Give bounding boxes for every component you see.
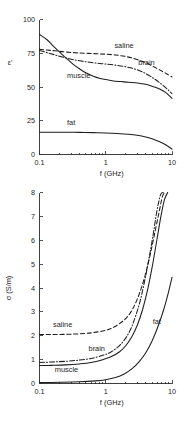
curve-label-conductivity-brain: brain bbox=[89, 344, 105, 353]
curve-label-conductivity-fat: fat bbox=[153, 317, 161, 326]
curve-label-permittivity-muscle: muscle bbox=[67, 71, 90, 80]
axis-spine bbox=[40, 20, 173, 155]
curve-permittivity-brain bbox=[40, 51, 173, 94]
x-axis-title-1: f (GHz) bbox=[100, 398, 124, 407]
curve-label-permittivity-saline: saline bbox=[114, 41, 133, 50]
axis-spine bbox=[40, 193, 173, 384]
curve-label-conductivity-muscle: muscle bbox=[55, 365, 78, 374]
curve-permittivity-fat bbox=[40, 132, 173, 149]
y-tick-label-0-1: 25 bbox=[27, 116, 35, 125]
x-tick-label-0-2: 10 bbox=[168, 158, 176, 167]
y-tick-label-0-2: 50 bbox=[27, 83, 35, 92]
y-tick-label-1-2: 2 bbox=[31, 331, 35, 340]
y-tick-label-0-4: 100 bbox=[23, 15, 35, 24]
x-axis-title-0: f (GHz) bbox=[100, 169, 124, 178]
y-tick-label-0-3: 75 bbox=[27, 49, 35, 58]
figure-container: 02550751000.1110f (GHz)ε'musclesalinebra… bbox=[0, 0, 189, 438]
curve-label-permittivity-fat: fat bbox=[67, 118, 75, 127]
x-tick-label-0-0: 0.1 bbox=[35, 158, 45, 167]
curve-conductivity-saline bbox=[40, 193, 166, 335]
x-tick-label-1-2: 10 bbox=[168, 387, 176, 396]
curve-label-conductivity-saline: saline bbox=[53, 320, 72, 329]
y-tick-label-1-1: 1 bbox=[31, 355, 35, 364]
y-tick-label-1-7: 7 bbox=[31, 212, 35, 221]
y-tick-label-1-8: 8 bbox=[31, 188, 35, 197]
y-axis-title-1: σ (S/m) bbox=[4, 276, 13, 301]
permittivity-chart: 02550751000.1110f (GHz)ε'musclesalinebra… bbox=[8, 15, 176, 177]
dielectric-properties-figure: 02550751000.1110f (GHz)ε'musclesalinebra… bbox=[0, 0, 189, 438]
x-tick-label-1-1: 1 bbox=[104, 387, 108, 396]
conductivity-chart: 0123456780.1110f (GHz)σ (S/m)salinebrain… bbox=[4, 188, 176, 406]
y-tick-label-1-4: 4 bbox=[31, 284, 35, 293]
y-axis-title-0: ε' bbox=[8, 58, 13, 67]
curve-conductivity-muscle bbox=[40, 193, 168, 366]
x-tick-label-0-1: 1 bbox=[104, 158, 108, 167]
y-tick-label-1-6: 6 bbox=[31, 236, 35, 245]
curve-label-permittivity-brain: brain bbox=[138, 58, 154, 67]
x-tick-label-1-0: 0.1 bbox=[35, 387, 45, 396]
y-tick-label-1-5: 5 bbox=[31, 260, 35, 269]
y-tick-label-1-3: 3 bbox=[31, 307, 35, 316]
